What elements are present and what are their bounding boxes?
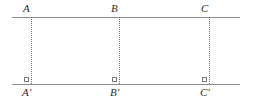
point-label-c-prime: C′ [200,87,210,98]
point-label-a: A [23,3,30,14]
perpendicular-segment-bb-prime [119,17,120,84]
perpendicular-segment-cc-prime [209,17,210,84]
geometry-figure: A B C A′ B′ C′ [0,0,254,104]
right-angle-mark-c-prime [202,77,207,82]
point-label-a-prime: A′ [22,87,32,98]
perpendicular-segment-aa-prime [31,17,32,84]
lower-parallel-line [12,84,240,85]
point-label-b-prime: B′ [110,87,120,98]
point-label-b: B [111,3,118,14]
right-angle-mark-b-prime [112,77,117,82]
point-label-c: C [201,3,209,14]
upper-parallel-line [12,17,240,18]
right-angle-mark-a-prime [24,77,29,82]
